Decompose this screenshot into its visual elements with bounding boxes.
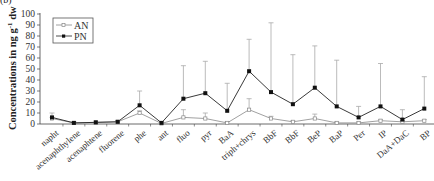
series-line-an xyxy=(52,110,424,124)
marker-an xyxy=(357,121,360,124)
marker-an xyxy=(423,119,426,122)
marker-pn xyxy=(422,107,426,111)
marker-pn xyxy=(379,104,383,108)
y-tick-label: 100 xyxy=(21,9,36,19)
marker-an xyxy=(269,117,272,120)
y-tick-label: 90 xyxy=(26,20,36,30)
marker-pn xyxy=(291,102,295,106)
x-tick-label: BaP xyxy=(327,128,345,145)
marker-an xyxy=(204,117,207,120)
x-tick-labels: naphtacenaphthyleneacenaphtenefluoreneph… xyxy=(33,127,433,171)
y-tick-label: 40 xyxy=(26,75,36,85)
legend-pn-label: PN xyxy=(74,31,87,42)
marker-an xyxy=(248,108,251,111)
marker-an xyxy=(226,121,229,124)
y-tick-label: 30 xyxy=(26,86,36,96)
marker-pn xyxy=(50,115,54,119)
x-tick-label: BeP xyxy=(305,128,323,145)
marker-an xyxy=(182,116,185,119)
marker-an xyxy=(335,121,338,124)
marker-pn xyxy=(247,69,251,73)
legend-an-marker xyxy=(62,24,65,27)
x-tick-label: BbF xyxy=(283,128,301,146)
line-chart: (b) Concentrations in ng g-1 dw 01020304… xyxy=(0,0,434,181)
x-tick-label: IP xyxy=(376,128,389,141)
marker-pn xyxy=(269,90,273,94)
marker-pn xyxy=(225,109,229,113)
y-tick-label: 10 xyxy=(26,108,36,118)
marker-pn xyxy=(116,120,120,124)
marker-pn xyxy=(357,115,361,119)
legend-an-label: AN xyxy=(74,20,88,31)
series-lines xyxy=(52,71,424,123)
marker-pn xyxy=(181,97,185,101)
marker-an xyxy=(291,120,294,123)
legend-pn-marker xyxy=(62,35,65,38)
marker-pn xyxy=(94,120,98,124)
marker-an xyxy=(138,111,141,114)
marker-pn xyxy=(313,86,317,90)
error-bars xyxy=(50,23,427,123)
y-tick-label: 0 xyxy=(30,119,35,129)
marker-an xyxy=(379,119,382,122)
marker-pn xyxy=(203,91,207,95)
y-tick-label: 50 xyxy=(26,64,36,74)
y-tick-label: 60 xyxy=(26,53,36,63)
marker-pn xyxy=(160,121,164,125)
x-tick-label: Per xyxy=(351,128,367,143)
marker-pn xyxy=(72,121,76,125)
x-tick-label: ant xyxy=(155,127,170,142)
y-tick-label: 20 xyxy=(26,97,36,107)
x-tick-label: phe xyxy=(132,128,148,144)
x-tick-label: BbF xyxy=(261,128,279,146)
series-line-pn xyxy=(52,71,424,123)
y-tick-label: 80 xyxy=(26,31,36,41)
marker-pn xyxy=(335,104,339,108)
marker-pn xyxy=(138,103,142,107)
plot-area: 0102030405060708090100 naphtacenaphthyle… xyxy=(0,0,434,181)
y-tick-label: 70 xyxy=(26,42,36,52)
marker-an xyxy=(313,117,316,120)
marker-pn xyxy=(400,118,404,122)
legend: AN PN xyxy=(53,18,93,43)
x-tick-label: pyr xyxy=(198,128,214,143)
x-tick-label: BP xyxy=(418,128,433,143)
x-tick-label: fluo xyxy=(174,127,192,144)
